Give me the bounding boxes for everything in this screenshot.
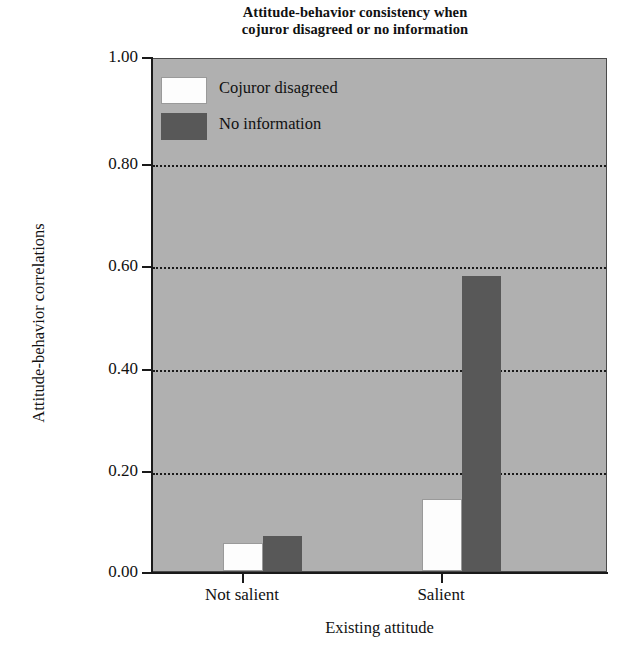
x-tick-mark-salient	[441, 574, 443, 583]
y-tick-label-0.00: 0.00	[58, 562, 138, 582]
x-axis-title: Existing attitude	[152, 618, 607, 638]
x-axis-line	[151, 572, 608, 574]
gridline-0.40	[153, 370, 606, 372]
y-tick-mark-0.40	[142, 369, 152, 371]
y-tick-mark-0.60	[142, 266, 152, 268]
bar-chart-figure: Attitude-behavior consistency when cojur…	[0, 0, 629, 667]
y-axis-title: Attitude-behavior correlations	[29, 178, 49, 468]
legend-label-cojuror-disagreed: Cojuror disagreed	[219, 78, 338, 98]
legend-item-no-information: No information	[161, 111, 411, 147]
legend-label-no-information: No information	[219, 114, 321, 134]
x-tick-label-not-salient: Not salient	[172, 585, 312, 605]
y-tick-label-0.60: 0.60	[58, 256, 138, 276]
x-tick-label-salient: Salient	[371, 585, 511, 605]
gridline-0.60	[153, 267, 606, 269]
y-tick-label-0.80: 0.80	[58, 154, 138, 174]
y-tick-label-1.00: 1.00	[58, 47, 138, 67]
bar-salient-no-information	[462, 276, 501, 572]
chart-title-line-2: cojuror disagreed or no information	[150, 21, 560, 38]
chart-legend: Cojuror disagreed No information	[161, 75, 411, 147]
y-tick-label-0.40: 0.40	[58, 359, 138, 379]
chart-title: Attitude-behavior consistency when cojur…	[150, 4, 560, 38]
bar-not-salient-cojuror-disagreed	[223, 543, 263, 571]
bar-salient-cojuror-disagreed	[422, 499, 462, 571]
y-axis-line	[151, 57, 153, 574]
gridline-0.20	[153, 473, 606, 475]
y-tick-mark-0.20	[142, 471, 152, 473]
legend-swatch-cojuror-disagreed	[161, 77, 207, 104]
plot-area: Cojuror disagreed No information	[152, 58, 607, 572]
legend-swatch-no-information	[161, 113, 207, 140]
x-tick-mark-not-salient	[242, 574, 244, 583]
gridline-0.80	[153, 165, 606, 167]
y-tick-mark-0.80	[142, 164, 152, 166]
legend-item-cojuror-disagreed: Cojuror disagreed	[161, 75, 411, 111]
chart-title-line-1: Attitude-behavior consistency when	[150, 4, 560, 21]
bar-not-salient-no-information	[263, 536, 302, 571]
y-tick-mark-0.00	[142, 572, 152, 574]
y-tick-label-0.20: 0.20	[58, 461, 138, 481]
y-tick-mark-1.00	[142, 57, 152, 59]
